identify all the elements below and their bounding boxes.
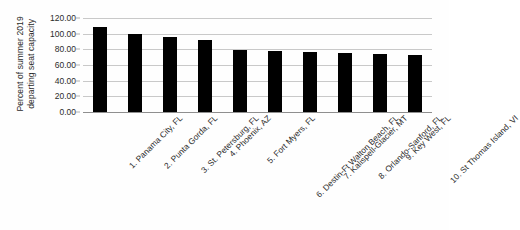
plot-area [83, 18, 432, 112]
bars-series [83, 18, 432, 112]
bar [128, 34, 142, 112]
y-axis-tick-mark [76, 49, 80, 50]
bar [303, 52, 317, 112]
bar [268, 51, 282, 112]
x-axis-tick-labels: 1. Panama City, FL2. Punta Gorda, FL3. S… [83, 113, 449, 230]
y-axis-tick-label: 80.00 [55, 44, 76, 54]
bar [93, 27, 107, 112]
y-axis-tick-label: 60.00 [55, 60, 76, 70]
x-axis-tick-label: 5. Fort Myers, FL [265, 113, 317, 165]
bar [163, 37, 177, 112]
y-axis-tick-mark [76, 112, 80, 113]
y-axis-tick-mark [76, 65, 80, 66]
x-axis-tick-label: 6. Destin-Ft Walton Beach, FL [314, 113, 400, 199]
bar [408, 55, 422, 112]
y-axis-title-line-2: departing seat capacity [26, 19, 37, 109]
y-axis-tick-label: 120.00 [50, 13, 76, 23]
y-axis-tick-mark [76, 80, 80, 81]
bar [373, 54, 387, 112]
bar [233, 50, 247, 112]
y-axis-tick-label: 20.00 [55, 91, 76, 101]
y-axis-tick-labels: 0.0020.0040.0060.0080.00100.00120.00 [44, 18, 80, 112]
y-axis-tick-mark [76, 33, 80, 34]
y-axis-title-line-1: Percent of summer 2019 [15, 16, 26, 111]
y-axis-tick-mark [76, 18, 80, 19]
x-axis-tick-label: 7. Kalispell-Glacier, MT [341, 113, 409, 181]
bar [338, 53, 352, 112]
bar [198, 40, 212, 112]
y-axis-tick-mark [76, 96, 80, 97]
x-axis-tick-label: 10. St Thomas Island, VI [447, 113, 519, 185]
y-axis-tick-label: 40.00 [55, 76, 76, 86]
y-axis-tick-label: 100.00 [50, 29, 76, 39]
y-axis-tick-label: 0.00 [59, 107, 76, 117]
